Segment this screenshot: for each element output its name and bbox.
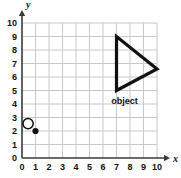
object-label: object bbox=[111, 96, 138, 106]
x-tick-label: 1 bbox=[33, 162, 38, 172]
y-tick-label: 8 bbox=[12, 45, 17, 55]
x-axis-name: x bbox=[172, 153, 178, 164]
coordinate-plane-svg: 012345678910012345678910 xy object bbox=[0, 0, 181, 178]
grid-lines bbox=[22, 23, 157, 158]
y-tick-label: 4 bbox=[12, 99, 17, 109]
open-circle-marker bbox=[23, 118, 33, 128]
x-tick-label: 9 bbox=[141, 162, 146, 172]
y-tick-label: 6 bbox=[12, 72, 17, 82]
axis-name-labels: xy bbox=[25, 0, 178, 164]
x-tick-label: 8 bbox=[127, 162, 132, 172]
axis-lines bbox=[19, 10, 170, 161]
tick-labels: 012345678910012345678910 bbox=[7, 18, 162, 172]
y-axis-arrowhead bbox=[19, 10, 25, 16]
y-tick-label: 10 bbox=[7, 18, 17, 28]
x-axis-arrowhead bbox=[164, 155, 170, 161]
x-tick-label: 10 bbox=[152, 162, 162, 172]
y-tick-label: 0 bbox=[12, 153, 17, 163]
y-tick-label: 1 bbox=[12, 140, 17, 150]
y-tick-label: 7 bbox=[12, 59, 17, 69]
x-tick-label: 4 bbox=[73, 162, 78, 172]
y-tick-label: 9 bbox=[12, 32, 17, 42]
plotted-point-marker bbox=[32, 128, 38, 134]
y-tick-label: 2 bbox=[12, 126, 17, 136]
y-tick-label: 5 bbox=[12, 86, 17, 96]
shape-labels: object bbox=[111, 96, 138, 106]
x-tick-label: 6 bbox=[100, 162, 105, 172]
x-tick-label: 7 bbox=[114, 162, 119, 172]
x-tick-label: 2 bbox=[46, 162, 51, 172]
x-tick-label: 0 bbox=[19, 162, 24, 172]
x-tick-label: 3 bbox=[60, 162, 65, 172]
y-tick-label: 3 bbox=[12, 113, 17, 123]
y-axis-name: y bbox=[25, 0, 31, 10]
coordinate-grid-figure: 012345678910012345678910 xy object bbox=[0, 0, 181, 178]
x-tick-label: 5 bbox=[87, 162, 92, 172]
